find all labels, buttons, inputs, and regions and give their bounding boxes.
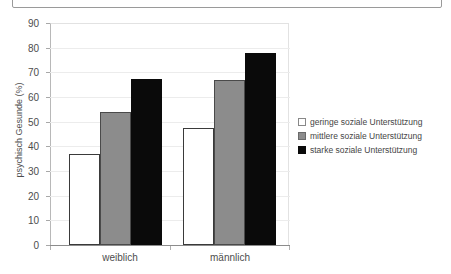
chart-legend: geringe soziale Unterstützung mittlere s…	[298, 115, 448, 157]
legend-swatch-icon	[298, 132, 306, 140]
legend-swatch-icon	[298, 118, 306, 126]
bar-chart: 90 80 70 60 50 40 30 20 10 0 psychisch G…	[0, 0, 451, 274]
y-tick-mark	[46, 23, 50, 24]
gridline	[50, 48, 290, 49]
x-tick-mark	[289, 246, 290, 250]
x-tick-mark	[50, 246, 51, 250]
legend-item-geringe: geringe soziale Unterstützung	[298, 115, 448, 128]
x-category-label-weiblich: weiblich	[70, 252, 170, 263]
legend-item-starke: starke soziale Unterstützung	[298, 143, 448, 156]
y-tick-label: 90	[0, 19, 39, 29]
y-axis-title: psychisch Gesunde (%)	[14, 60, 24, 200]
legend-label: starke soziale Unterstützung	[310, 145, 417, 155]
x-tick-mark	[170, 246, 171, 250]
bar-weiblich-geringe	[69, 154, 100, 245]
legend-item-mittlere: mittlere soziale Unterstützung	[298, 129, 448, 142]
y-tick-label: 0	[0, 241, 39, 251]
legend-label: mittlere soziale Unterstützung	[310, 131, 422, 141]
y-tick-label: 80	[0, 44, 39, 54]
y-tick-label: 10	[0, 216, 39, 226]
legend-swatch-icon	[298, 146, 306, 154]
legend-label: geringe soziale Unterstützung	[310, 117, 422, 127]
bar-maennlich-mittlere	[214, 80, 245, 245]
x-category-label-maennlich: männlich	[180, 252, 280, 263]
bar-maennlich-geringe	[183, 128, 214, 245]
bar-weiblich-starke	[131, 79, 162, 246]
bar-weiblich-mittlere	[100, 112, 131, 245]
bar-maennlich-starke	[245, 53, 276, 245]
